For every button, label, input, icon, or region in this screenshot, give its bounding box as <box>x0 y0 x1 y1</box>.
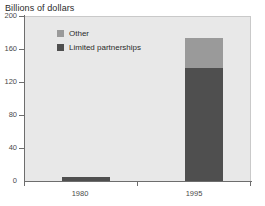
bar-1995-other <box>185 38 223 68</box>
legend-item-other: Other <box>57 28 141 39</box>
y-tick-40 <box>19 148 25 149</box>
x-tick-right <box>250 181 251 186</box>
y-axis-line <box>24 15 25 182</box>
y-tick-120 <box>19 82 25 83</box>
legend-label-other: Other <box>69 29 89 38</box>
y-tick-80 <box>19 115 25 116</box>
x-tick-label-1995: 1995 <box>164 189 224 198</box>
legend-label-limited-partnerships: Limited partnerships <box>69 43 141 52</box>
y-tick-label-160: 160 <box>0 45 17 53</box>
plot-top-border <box>24 16 251 17</box>
y-tick-160 <box>19 49 25 50</box>
chart-legend: Other Limited partnerships <box>57 28 141 56</box>
x-axis-line <box>24 181 252 182</box>
legend-item-limited-partnerships: Limited partnerships <box>57 42 141 53</box>
legend-swatch-limited-partnerships-icon <box>57 44 64 51</box>
y-tick-label-200: 200 <box>0 12 17 20</box>
y-tick-label-80: 80 <box>0 111 17 119</box>
y-tick-label-120: 120 <box>0 78 17 86</box>
x-tick-label-1980: 1980 <box>50 189 110 198</box>
y-tick-label-0: 0 <box>0 177 17 185</box>
legend-swatch-other-icon <box>57 30 64 37</box>
plot-right-border <box>250 16 251 181</box>
x-tick-middle <box>137 181 138 186</box>
x-tick-left <box>24 181 25 186</box>
y-tick-label-40: 40 <box>0 144 17 152</box>
bar-chart: Billions of dollars 200 160 120 80 40 0 … <box>0 0 265 206</box>
bar-1980-limited-partnerships <box>62 177 110 181</box>
bar-1995-limited-partnerships <box>185 68 223 181</box>
y-tick-200 <box>19 16 25 17</box>
